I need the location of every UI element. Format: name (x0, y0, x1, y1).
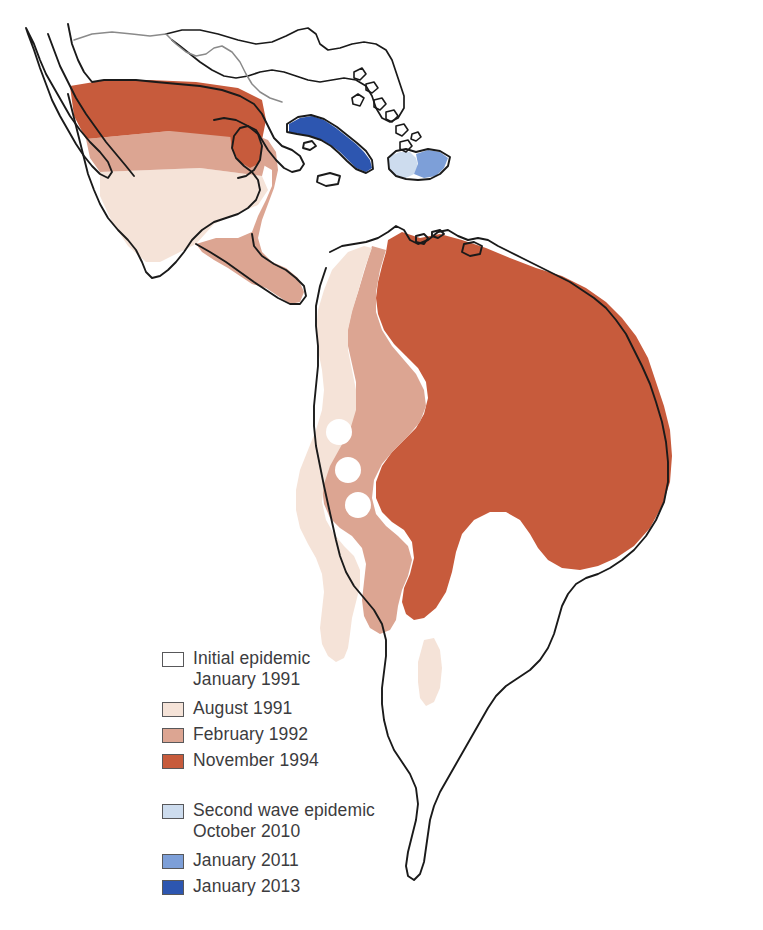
map-legend: Initial epidemic January 1991 August 199… (162, 648, 452, 902)
region-haiti (388, 152, 418, 178)
outline-bahamas-4 (374, 98, 386, 110)
outline-isla-juventud (303, 141, 316, 150)
unfilled-circle-2 (335, 457, 361, 483)
legend-item-january-2011[interactable]: January 2011 (162, 850, 452, 871)
outline-bahamas-6 (396, 124, 408, 136)
legend-swatch-second-wave-epidemic (162, 804, 184, 819)
legend-item-second-wave-epidemic[interactable]: Second wave epidemic October 2010 (162, 800, 452, 842)
cholera-spread-map-figure: Initial epidemic January 1991 August 199… (0, 0, 763, 930)
legend-label-august-1991: August 1991 (193, 698, 292, 719)
legend-swatch-november-1994 (162, 754, 184, 769)
legend-swatch-august-1991 (162, 702, 184, 717)
outline-bahamas-8 (411, 132, 421, 141)
outline-bahamas-1 (354, 68, 366, 80)
legend-item-august-1991[interactable]: August 1991 (162, 698, 452, 719)
legend-item-initial-epidemic[interactable]: Initial epidemic January 1991 (162, 648, 452, 690)
legend-swatch-initial-epidemic (162, 652, 184, 667)
outline-jamaica (317, 173, 340, 186)
region-brazil-north-east (376, 232, 672, 620)
unfilled-circle-3 (345, 492, 371, 518)
legend-swatch-january-2011 (162, 854, 184, 869)
region-dominican-republic (414, 150, 448, 178)
legend-label-january-2013: January 2013 (193, 876, 300, 897)
legend-swatch-february-1992 (162, 728, 184, 743)
legend-group-first-wave: Initial epidemic January 1991 August 199… (162, 648, 452, 771)
legend-label-november-1994: November 1994 (193, 750, 319, 771)
unfilled-circle-1 (326, 419, 352, 445)
legend-item-february-1992[interactable]: February 1992 (162, 724, 452, 745)
legend-label-second-wave-epidemic: Second wave epidemic October 2010 (193, 800, 375, 842)
legend-item-november-1994[interactable]: November 1994 (162, 750, 452, 771)
legend-label-january-2011: January 2011 (193, 850, 299, 871)
legend-label-february-1992: February 1992 (193, 724, 308, 745)
outline-bahamas-3 (352, 94, 364, 106)
legend-item-january-2013[interactable]: January 2013 (162, 876, 452, 897)
legend-swatch-january-2013 (162, 880, 184, 895)
legend-group-second-wave: Second wave epidemic October 2010 Januar… (162, 800, 452, 897)
legend-label-initial-epidemic: Initial epidemic January 1991 (193, 648, 310, 690)
